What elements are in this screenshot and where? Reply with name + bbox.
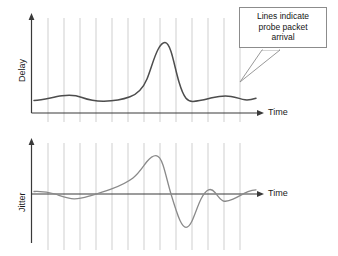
callout-line-1: Lines indicate	[242, 11, 324, 22]
delay-chart	[29, 13, 264, 122]
delay-curve	[34, 43, 256, 102]
jitter-x-axis-label: Time	[268, 189, 288, 198]
delay-y-axis-arrowhead	[29, 13, 35, 20]
callout-line-2: probe packet	[242, 22, 324, 33]
callout-pointer	[240, 49, 280, 82]
delay-gridlines	[48, 18, 240, 122]
jitter-chart	[29, 138, 264, 250]
callout-line-3: arrival	[242, 32, 324, 43]
callout-pointer-tail	[240, 50, 280, 82]
jitter-curve	[34, 156, 256, 228]
jitter-x-axis-arrowhead	[257, 191, 264, 197]
jitter-gridlines	[48, 143, 240, 250]
callout-annotation: Lines indicate probe packet arrival	[239, 7, 327, 48]
delay-x-axis-label: Time	[268, 108, 288, 117]
jitter-y-axis-label: Jitter	[18, 192, 27, 212]
delay-x-axis-arrowhead	[257, 110, 264, 116]
delay-y-axis-label: Delay	[18, 59, 27, 82]
jitter-y-axis-arrowhead	[29, 138, 35, 145]
